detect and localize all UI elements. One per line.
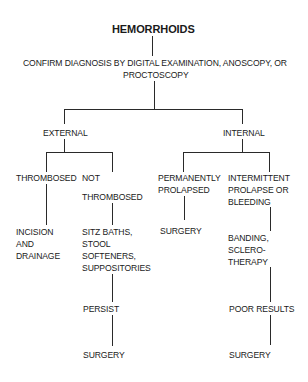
connector-line [270, 315, 271, 345]
intermittent-label: BLEEDING [228, 196, 271, 208]
external-surgery-label: SURGERY [83, 349, 125, 361]
connector-line [112, 315, 113, 346]
connector-line [46, 184, 47, 225]
connector-line [184, 196, 185, 220]
treatment-text: SOFTENERS, [82, 250, 136, 262]
connector-line [270, 267, 271, 302]
intermittent-label: INTERMITTENT [228, 172, 290, 184]
treatment-text: DRAINAGE [16, 250, 60, 262]
persist-label: PERSIST [83, 303, 119, 315]
internal-label: INTERNAL [223, 127, 265, 139]
connector-line [64, 139, 65, 152]
prolapsed-label: PERMANENTLY [158, 172, 221, 184]
connector-line [64, 109, 65, 124]
connector-line [242, 109, 243, 124]
branch-line [46, 152, 113, 153]
connector-line [112, 152, 113, 172]
connector-line [183, 152, 184, 172]
treatment-text: BANDING, [228, 232, 269, 244]
intermittent-label: PROLAPSE OR [228, 184, 289, 196]
external-label: EXTERNAL [43, 127, 88, 139]
title-hemorrhoids: HEMORRHOIDS [112, 22, 195, 36]
not-thrombosed-label: NOT [82, 172, 100, 184]
prolapsed-surgery-label: SURGERY [160, 225, 202, 237]
poor-results-label: POOR RESULTS [229, 303, 295, 315]
branch-line [64, 109, 243, 110]
treatment-text: SUPPOSITORIES [82, 262, 151, 274]
branch-line [183, 152, 270, 153]
prolapsed-label: PROLAPSED [158, 184, 210, 196]
connector-line [46, 152, 47, 172]
treatment-text: SCLERO- [228, 244, 266, 256]
connector-line [154, 81, 155, 109]
treatment-text: THERAPY [228, 256, 268, 268]
connector-line [112, 203, 113, 225]
connector-line [242, 139, 243, 152]
treatment-text: SITZ BATHS, [82, 226, 132, 238]
treatment-text: AND [16, 238, 34, 250]
confirm-diagnosis-line2: PROCTOSCOPY [123, 69, 189, 81]
internal-surgery-label: SURGERY [229, 349, 271, 361]
connector-line [269, 152, 270, 172]
connector-line [270, 207, 271, 231]
connector-line [112, 274, 113, 302]
treatment-text: STOOL [82, 238, 110, 250]
thrombosed-label: THROMBOSED [16, 172, 77, 184]
not-thrombosed-label: THROMBOSED [82, 191, 143, 203]
treatment-text: INCISION [16, 226, 53, 238]
confirm-diagnosis-line1: CONFIRM DIAGNOSIS BY DIGITAL EXAMINATION… [23, 57, 287, 69]
connector-line [152, 36, 153, 56]
